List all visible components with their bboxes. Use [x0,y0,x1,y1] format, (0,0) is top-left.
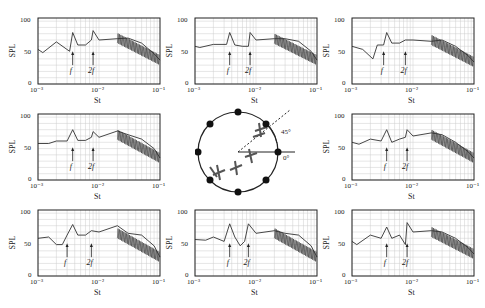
f-marker-label: f [381,66,383,75]
y-axis-label: SPL [322,44,331,58]
x-tick-1e-3: 10⁻³ [187,278,200,286]
y-tick-50: 50 [24,144,31,152]
f-marker-label: f [227,66,229,75]
x-axis-label: St [251,96,258,105]
spl-plot-middle-right: f 2f SPL St 0 50 100 10⁻³ 10⁻² 10⁻¹ [322,108,484,204]
y-axis-label: SPL [165,44,174,58]
spl-plot-bottom-right: f 2f SPL St 0 50 100 10⁻³ 10⁻² 10⁻¹ [322,204,484,300]
array-schematic [195,105,305,200]
y-axis-label: SPL [322,236,331,250]
y-tick-100: 100 [177,208,188,216]
2f-marker-label: 2f [88,162,94,171]
y-tick-50: 50 [181,240,188,248]
x-tick-1e-3: 10⁻³ [344,182,357,190]
spl-plot-top-left: f 2f SPL St 0 50 100 10⁻³ 10⁻² 10⁻¹ [8,12,170,108]
f-marker-label: f [384,162,386,171]
f-marker-label: f [70,162,72,171]
2f-marker-label: 2f [88,66,94,75]
spl-plot-bottom-center: f 2f SPL St 0 50 100 10⁻³ 10⁻² 10⁻¹ [165,204,327,300]
2f-marker-label: 2f [243,258,249,267]
x-tick-1e-2: 10⁻² [405,278,418,286]
y-tick-100: 100 [20,16,31,24]
2f-marker-label: 2f [86,258,92,267]
x-axis-label: St [408,288,415,297]
y-tick-100: 100 [334,112,345,120]
y-axis-label: SPL [8,44,17,58]
x-tick-1e-3: 10⁻³ [30,182,43,190]
spl-noise [117,130,159,162]
x-axis-label: St [251,288,258,297]
x-tick-1e-2: 10⁻² [248,278,261,286]
y-tick-100: 100 [20,208,31,216]
f-marker-label: f [70,66,72,75]
f-marker-label: f [384,258,386,267]
y-tick-50: 50 [338,48,345,56]
spl-plot-top-center: f 2f SPL St 0 50 100 10⁻³ 10⁻² 10⁻¹ [165,12,327,108]
x-tick-1e-1: 10⁻¹ [309,278,322,286]
x-axis-label: St [94,96,101,105]
y-tick-100: 100 [177,16,188,24]
angle-label-45: 45° [281,128,291,136]
x-axis-label: St [408,96,415,105]
spl-noise [274,34,316,64]
2f-marker-label: 2f [400,66,406,75]
spl-noise [117,34,159,65]
x-tick-1e-1: 10⁻¹ [466,182,479,190]
x-tick-1e-2: 10⁻² [91,278,104,286]
x-tick-1e-1: 10⁻¹ [152,86,165,94]
2f-marker-label: 2f [245,66,251,75]
f-marker-label: f [227,258,229,267]
x-axis-label: St [94,288,101,297]
y-axis-label: SPL [8,140,17,154]
x-tick-1e-2: 10⁻² [91,86,104,94]
x-tick-1e-3: 10⁻³ [30,86,43,94]
y-tick-50: 50 [181,48,188,56]
x-tick-1e-2: 10⁻² [248,86,261,94]
y-axis-label: SPL [8,236,17,250]
x-axis-label: St [408,192,415,201]
spl-plot-middle-left: f 2f SPL St 0 50 100 10⁻³ 10⁻² 10⁻¹ [8,108,170,204]
y-tick-100: 100 [20,112,31,120]
2f-marker-label: 2f [402,258,408,267]
f-marker-label: f [64,258,66,267]
x-tick-1e-1: 10⁻¹ [152,278,165,286]
y-tick-100: 100 [334,16,345,24]
x-tick-1e-3: 10⁻³ [344,278,357,286]
spl-plot-bottom-left: f 2f SPL St 0 50 100 10⁻³ 10⁻² 10⁻¹ [8,204,170,300]
x-tick-1e-1: 10⁻¹ [309,86,322,94]
x-tick-1e-3: 10⁻³ [30,278,43,286]
x-axis-label: St [94,192,101,201]
x-tick-1e-3: 10⁻³ [187,86,200,94]
x-tick-1e-3: 10⁻³ [344,86,357,94]
y-tick-100: 100 [334,208,345,216]
x-tick-1e-1: 10⁻¹ [152,182,165,190]
2f-marker-label: 2f [402,162,408,171]
microphone-array-diagram: 45° 0° [195,105,305,200]
spl-noise [431,130,473,162]
x-tick-1e-2: 10⁻² [405,182,418,190]
y-tick-50: 50 [338,144,345,152]
y-axis-label: SPL [322,140,331,154]
x-tick-1e-2: 10⁻² [405,86,418,94]
y-tick-50: 50 [338,240,345,248]
angle-label-0: 0° [283,154,289,162]
y-tick-50: 50 [24,240,31,248]
x-tick-1e-1: 10⁻¹ [466,278,479,286]
spl-plot-top-right: f 2f SPL St 0 50 100 10⁻³ 10⁻² 10⁻¹ [322,12,484,108]
x-tick-1e-2: 10⁻² [91,182,104,190]
x-tick-1e-1: 10⁻¹ [466,86,479,94]
y-axis-label: SPL [165,236,174,250]
y-tick-50: 50 [24,48,31,56]
